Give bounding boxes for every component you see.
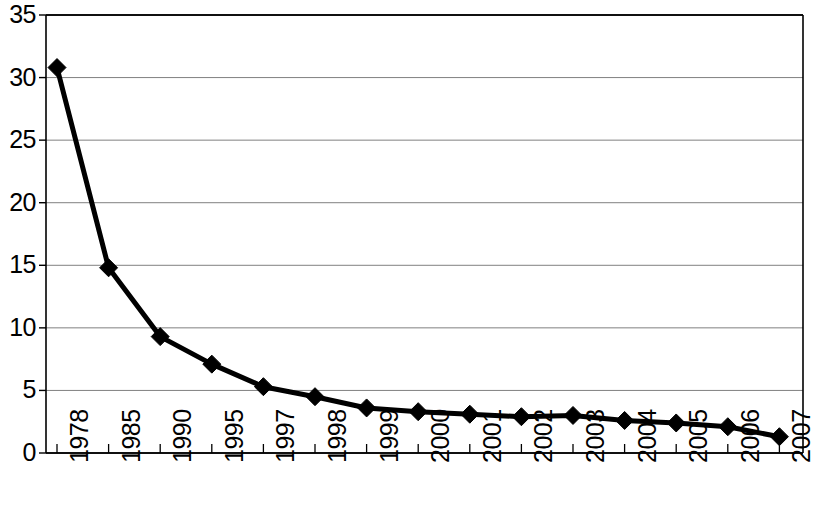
x-axis-tick-label: 2001: [480, 409, 505, 463]
x-axis-tick-label: 1990: [170, 409, 195, 463]
x-axis-tick-label: 1997: [273, 409, 298, 463]
x-axis-tick-label: 2002: [531, 409, 556, 463]
x-axis-tick-label: 1995: [222, 409, 247, 463]
x-axis-tick-label: 2007: [789, 409, 814, 463]
x-axis-tick-label: 1998: [325, 409, 350, 463]
x-axis-tick-label: 2000: [428, 409, 453, 463]
x-axis-tick-label: 1985: [119, 409, 144, 463]
x-axis-tick-label: 2006: [738, 409, 763, 463]
x-axis-tick-label: 2003: [583, 409, 608, 463]
x-axis-tick-label: 1999: [377, 409, 402, 463]
x-axis-tick-label: 1978: [67, 409, 92, 463]
x-axis-tick-label: 2005: [686, 409, 711, 463]
x-axis-tick-label: 2004: [635, 409, 660, 463]
